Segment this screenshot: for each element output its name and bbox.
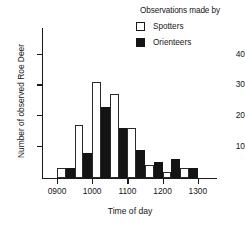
bar-orienteers-1130 (154, 162, 163, 177)
x-axis-tick (198, 179, 199, 184)
bar-spotters-1100 (127, 128, 136, 177)
x-axis-tick-label: 1300 (178, 186, 218, 196)
x-axis-tick-label: 1100 (107, 186, 147, 196)
bar-spotters-1200 (163, 172, 172, 178)
bar-orienteers-1230 (189, 168, 198, 177)
x-axis-title: Time of day (55, 206, 205, 216)
bar-orienteers-1100 (136, 150, 145, 178)
x-axis-tick-label: 1200 (143, 186, 183, 196)
bar-orienteers-1000 (101, 107, 110, 178)
x-axis-tick (57, 179, 58, 184)
bar-spotters-1130 (145, 165, 154, 177)
x-axis-tick (127, 179, 128, 184)
plot-area: Number of observed Roe Deer Time of day … (0, 0, 245, 230)
bar-spotters-0930 (75, 125, 84, 178)
x-axis-tick-label: 1000 (72, 186, 112, 196)
bar-spotters-1030 (110, 94, 119, 177)
bar-orienteers-0930 (83, 153, 92, 178)
x-axis-tick (163, 179, 164, 184)
bar-spotters-1000 (92, 82, 101, 178)
bar-spotters-0900 (57, 168, 66, 177)
bar-orienteers-1030 (119, 128, 128, 177)
x-axis-tick (92, 179, 93, 184)
bar-orienteers-1200 (171, 159, 180, 178)
bars-layer (0, 0, 245, 178)
bar-orienteers-0900 (66, 168, 75, 177)
roe-deer-observations-histogram: Observations made by Spotters Orienteers… (0, 0, 245, 230)
bar-spotters-1230 (180, 168, 189, 177)
x-axis-line (42, 178, 217, 179)
x-axis-tick-label: 0900 (37, 186, 77, 196)
